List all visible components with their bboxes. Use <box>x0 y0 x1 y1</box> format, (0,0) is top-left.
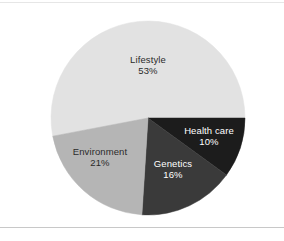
pie-slices-group <box>51 21 245 215</box>
pie-chart-svg <box>0 0 284 241</box>
pie-label-health-care-name: Health care <box>184 125 234 136</box>
pie-label-genetics-name: Genetics <box>154 158 192 169</box>
pie-label-lifestyle-name: Lifestyle <box>130 54 166 65</box>
pie-label-genetics-value: 16% <box>140 169 206 180</box>
pie-label-environment-value: 21% <box>60 157 140 168</box>
pie-label-genetics: Genetics 16% <box>140 158 206 180</box>
pie-label-environment: Environment 21% <box>60 146 140 168</box>
bottom-divider-rule <box>0 227 284 228</box>
pie-chart-figure: Lifestyle 53% Health care 10% Genetics 1… <box>0 0 284 241</box>
pie-label-environment-name: Environment <box>73 146 127 157</box>
pie-label-lifestyle-value: 53% <box>98 65 198 76</box>
pie-label-lifestyle: Lifestyle 53% <box>98 54 198 76</box>
pie-label-health-care-value: 10% <box>172 136 246 147</box>
pie-label-health-care: Health care 10% <box>172 125 246 147</box>
